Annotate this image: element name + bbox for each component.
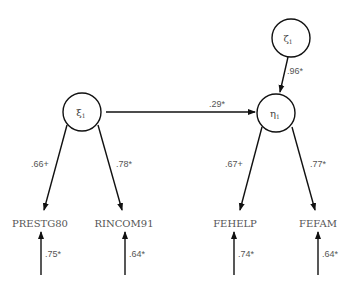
coef-error-fehelp: .74* [238, 249, 255, 259]
observed-fehelp: FEHELP [213, 218, 257, 229]
coef-xi1-rincom91: .78* [116, 159, 133, 169]
observed-rincom91: RINCOM91 [94, 218, 153, 229]
observed-prestg80: PRESTG80 [12, 218, 68, 229]
sem-diagram: ζ1 ξ1 η1 PRESTG80 RINCOM91 FEHELP FEFAM … [0, 0, 356, 295]
node-xi1: ξ1 [63, 93, 101, 131]
coef-xi1-eta1: .29* [209, 99, 226, 109]
coef-eta1-fefam: .77* [310, 159, 327, 169]
zeta-subscript: 1 [289, 38, 293, 45]
xi-subscript: 1 [82, 112, 86, 119]
coef-error-prestg80: .75* [45, 249, 62, 259]
coef-xi1-prestg80: .66+ [31, 159, 49, 169]
path-eta1-fehelp [240, 127, 262, 210]
node-zeta1: ζ1 [272, 19, 310, 57]
observed-fefam: FEFAM [299, 218, 337, 229]
coef-error-rincom91: .64* [129, 249, 146, 259]
coef-zeta1-eta1: .96* [287, 66, 304, 76]
coef-eta1-fehelp: .67+ [225, 159, 243, 169]
node-eta1: η1 [257, 94, 295, 132]
eta-subscript: 1 [276, 113, 280, 120]
coef-error-fefam: .64* [322, 249, 339, 259]
